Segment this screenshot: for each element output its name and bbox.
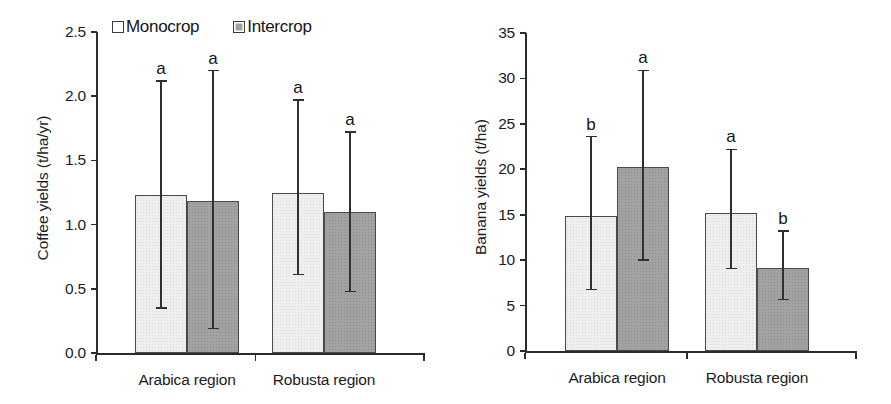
y-axis-tick: [91, 288, 97, 290]
error-bar: [160, 81, 161, 308]
x-axis-category-label: Arabica region: [107, 372, 267, 388]
y-axis-tick-label: 10: [469, 252, 515, 267]
y-axis-tick-label: 1.0: [40, 217, 86, 232]
x-axis-tick: [423, 355, 425, 361]
x-axis-category-label: Robusta region: [677, 370, 837, 386]
panel-coffee-yields: Coffee yields (t/ha/yr) 0.00.51.01.52.02…: [0, 0, 446, 404]
y-axis-line: [96, 32, 98, 355]
y-axis-tick: [520, 32, 526, 34]
y-axis-tick-label: 0.5: [40, 281, 86, 296]
y-axis-tick: [91, 352, 97, 354]
significance-letter: a: [203, 50, 223, 67]
error-bar-cap-upper: [726, 149, 737, 151]
error-bar-cap-upper: [156, 80, 167, 82]
y-axis-tick-label: 30: [469, 70, 515, 85]
significance-letter: a: [721, 128, 741, 145]
legend-item-intercrop: Intercrop: [233, 18, 311, 35]
error-bar-cap-upper: [208, 70, 219, 72]
y-axis-tick-label: 5: [469, 298, 515, 313]
y-axis-tick: [91, 31, 97, 33]
error-bar-cap-upper: [778, 230, 789, 232]
error-bar-cap-lower: [345, 291, 356, 293]
significance-letter: b: [581, 116, 601, 133]
y-axis-tick: [91, 160, 97, 162]
legend-label: Intercrop: [247, 18, 311, 35]
light-square-icon: [112, 21, 124, 33]
y-axis-tick: [91, 95, 97, 97]
y-axis-tick-label: 15: [469, 207, 515, 222]
y-axis-tick-label: 35: [469, 25, 515, 40]
x-axis-tick: [524, 353, 526, 359]
error-bar-cap-lower: [586, 289, 597, 291]
significance-letter: a: [288, 79, 308, 96]
y-axis-tick: [520, 214, 526, 216]
legend-item-monocrop: Monocrop: [112, 18, 199, 35]
y-axis-tick-label: 20: [469, 161, 515, 176]
y-axis-tick-label: 1.5: [40, 152, 86, 167]
error-bar: [782, 231, 783, 299]
significance-letter: a: [340, 111, 360, 128]
x-axis-tick: [255, 355, 257, 361]
gray-square-icon: [233, 21, 245, 33]
x-axis-line: [96, 353, 425, 355]
significance-letter: a: [633, 49, 653, 66]
y-axis-tick: [520, 305, 526, 307]
error-bar: [297, 100, 298, 275]
error-bar-cap-lower: [208, 328, 219, 330]
y-axis-tick-label: 25: [469, 116, 515, 131]
legend: MonocropIntercrop: [112, 18, 312, 35]
error-bar-cap-lower: [638, 259, 649, 261]
error-bar: [590, 137, 591, 290]
error-bar-cap-lower: [778, 299, 789, 301]
y-axis-title-coffee: Coffee yields (t/ha/yr): [34, 23, 56, 353]
x-axis-category-label: Robusta region: [244, 372, 404, 388]
error-bar-cap-lower: [726, 268, 737, 270]
error-bar: [642, 70, 643, 260]
significance-letter: b: [773, 210, 793, 227]
x-axis-tick: [855, 353, 857, 359]
x-axis-tick: [95, 355, 97, 361]
error-bar-cap-lower: [156, 307, 167, 309]
error-bar-cap-upper: [586, 136, 597, 138]
legend-label: Monocrop: [126, 18, 199, 35]
y-axis-tick: [520, 350, 526, 352]
y-axis-tick-label: 2.5: [40, 24, 86, 39]
error-bar-cap-upper: [638, 70, 649, 72]
error-bar-cap-lower: [293, 274, 304, 276]
y-axis-tick-label: 0: [469, 343, 515, 358]
y-axis-tick: [520, 78, 526, 80]
error-bar: [349, 132, 350, 291]
error-bar: [730, 149, 731, 268]
y-axis-tick: [520, 259, 526, 261]
y-axis-tick-label: 0.0: [40, 345, 86, 360]
error-bar: [212, 71, 213, 329]
y-axis-tick: [520, 168, 526, 170]
x-axis-tick: [686, 353, 688, 359]
y-axis-tick-label: 2.0: [40, 88, 86, 103]
y-axis-tick: [520, 123, 526, 125]
y-axis-tick: [91, 224, 97, 226]
significance-letter: a: [151, 60, 171, 77]
panel-banana-yields: Banana yields (t/ha) 05101520253035baAra…: [445, 0, 891, 404]
figure-two-panel-bar-charts: Coffee yields (t/ha/yr) 0.00.51.01.52.02…: [0, 0, 891, 404]
x-axis-line: [525, 351, 857, 353]
error-bar-cap-upper: [345, 131, 356, 133]
x-axis-category-label: Arabica region: [537, 370, 697, 386]
error-bar-cap-upper: [293, 99, 304, 101]
